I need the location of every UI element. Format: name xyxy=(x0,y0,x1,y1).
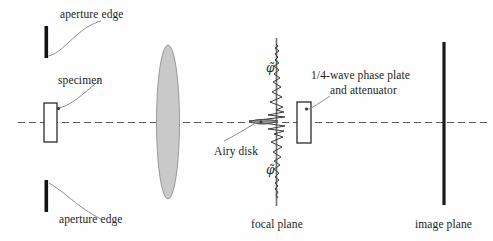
label-aperture-edge-bottom: aperture edge xyxy=(59,213,123,226)
aperture-edge-bar-top xyxy=(45,26,49,58)
leader-specimen-dot xyxy=(57,107,60,110)
leader-airy-disk-dot xyxy=(259,120,262,123)
diagram-canvas xyxy=(0,0,493,241)
leader-phase-plate-dot xyxy=(305,107,308,110)
aperture-edge-bar-bottom xyxy=(45,180,49,212)
label-specimen: specimen xyxy=(58,74,102,87)
phase-plate-rectangle xyxy=(297,102,311,143)
leader-airy-disk xyxy=(224,122,261,141)
label-airy-disk: Airy disk xyxy=(214,145,258,158)
label-phase-plate-line2: and attenuator xyxy=(330,84,397,97)
label-image-plane: image plane xyxy=(415,218,472,231)
symbol-phase-shift-top: φ̃ xyxy=(266,61,274,75)
label-focal-plane: focal plane xyxy=(251,218,303,231)
optical-diagram: aperture edge specimen aperture edge Air… xyxy=(0,0,493,241)
leader-aperture-edge-top xyxy=(49,21,102,56)
specimen-slab xyxy=(44,103,57,142)
label-phase-plate-line1: 1/4-wave phase plate xyxy=(311,69,410,82)
symbol-phase-shift-bottom: φ̃ xyxy=(266,163,274,177)
label-aperture-edge-top: aperture edge xyxy=(60,8,124,21)
objective-lens xyxy=(157,45,180,199)
